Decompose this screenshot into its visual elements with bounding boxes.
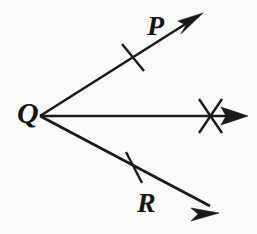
ray-qr-line (40, 116, 210, 206)
ray-label-r: R (137, 189, 156, 217)
ray-qp-arrowhead (178, 13, 203, 34)
geometry-figure: Q P R (0, 0, 257, 234)
ray-qp-group (40, 13, 203, 116)
ray-label-p: P (147, 12, 164, 40)
vertex-label-q: Q (17, 98, 39, 128)
ray-qp-tick-1 (122, 44, 144, 71)
ray-horizontal-group (40, 99, 248, 133)
ray-qr-arrowhead (191, 208, 219, 221)
ray-qp-line (40, 18, 195, 116)
ray-qr-group (40, 116, 219, 221)
